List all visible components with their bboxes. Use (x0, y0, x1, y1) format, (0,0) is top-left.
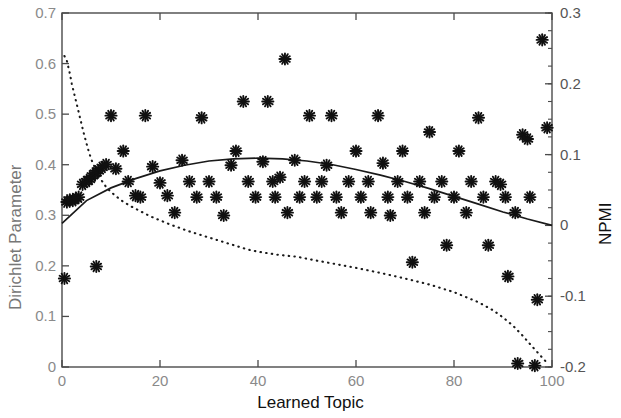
scatter-marker (502, 271, 513, 282)
y-right-tick-label: -0.2 (560, 358, 586, 375)
y-right-tick-label: 0.3 (560, 4, 581, 21)
scatter-marker (466, 176, 477, 187)
scatter-marker (372, 110, 383, 121)
x-axis-label: Learned Topic (0, 393, 621, 413)
x-tick-label: 40 (242, 372, 274, 389)
scatter-marker (118, 145, 129, 156)
scatter-marker (311, 191, 322, 202)
scatter-marker (478, 191, 489, 202)
y-left-tick-label: 0.5 (18, 105, 56, 122)
y-axis-right-label: NPMI (596, 203, 616, 246)
scatter-marker (500, 191, 511, 202)
y-left-tick-label: 0.7 (18, 4, 56, 21)
scatter-marker (402, 191, 413, 202)
scatter-marker (59, 273, 70, 284)
scatter-marker (537, 34, 548, 45)
scatter-marker (184, 176, 195, 187)
scatter-marker (326, 110, 337, 121)
scatter-marker (377, 158, 388, 169)
scatter-marker (392, 176, 403, 187)
scatter-marker (196, 112, 207, 123)
y-left-tick-label: 0.2 (18, 257, 56, 274)
scatter-marker (91, 261, 102, 272)
scatter-marker (225, 160, 236, 171)
chart-canvas (0, 0, 621, 418)
chart-figure: Dirichlet Parameter NPMI Learned Topic 0… (0, 0, 621, 418)
scatter-marker (397, 145, 408, 156)
scatter-marker (147, 161, 158, 172)
x-tick-label: 60 (340, 372, 372, 389)
y-right-tick-label: 0 (560, 216, 568, 233)
scatter-marker (524, 191, 535, 202)
scatter-marker (250, 191, 261, 202)
scatter-marker (407, 257, 418, 268)
scatter-marker (483, 240, 494, 251)
scatter-marker (169, 207, 180, 218)
scatter-marker (363, 176, 374, 187)
scatter-marker (262, 96, 273, 107)
npmi-scatter-points (59, 34, 553, 371)
scatter-marker (355, 191, 366, 202)
scatter-marker (350, 145, 361, 156)
scatter-marker (424, 126, 435, 137)
scatter-marker (203, 176, 214, 187)
x-tick-label: 80 (438, 372, 470, 389)
scatter-marker (436, 176, 447, 187)
scatter-marker (336, 207, 347, 218)
scatter-marker (304, 110, 315, 121)
scatter-marker (331, 191, 342, 202)
scatter-marker (282, 207, 293, 218)
dirichlet-dotted-line (64, 56, 547, 363)
scatter-marker (461, 207, 472, 218)
y-left-tick-label: 0.4 (18, 156, 56, 173)
scatter-marker (218, 210, 229, 221)
scatter-marker (294, 191, 305, 202)
scatter-marker (289, 155, 300, 166)
scatter-marker (316, 176, 327, 187)
scatter-marker (154, 177, 165, 188)
scatter-marker (385, 210, 396, 221)
y-left-tick-label: 0.3 (18, 206, 56, 223)
scatter-marker (140, 110, 151, 121)
scatter-marker (162, 190, 173, 201)
scatter-marker (105, 110, 116, 121)
scatter-marker (453, 145, 464, 156)
scatter-marker (429, 191, 440, 202)
scatter-marker (365, 207, 376, 218)
scatter-marker (279, 53, 290, 64)
scatter-marker (270, 191, 281, 202)
scatter-marker (419, 207, 430, 218)
x-tick-label: 20 (144, 372, 176, 389)
y-right-tick-label: -0.1 (560, 287, 586, 304)
scatter-marker (382, 191, 393, 202)
scatter-marker (343, 176, 354, 187)
scatter-marker (299, 176, 310, 187)
y-right-tick-label: 0.1 (560, 146, 581, 163)
scatter-marker (191, 191, 202, 202)
scatter-marker (441, 240, 452, 251)
scatter-marker (542, 122, 553, 133)
y-left-tick-label: 0.6 (18, 55, 56, 72)
scatter-marker (321, 160, 332, 171)
scatter-marker (529, 360, 540, 371)
scatter-marker (473, 112, 484, 123)
scatter-marker (230, 145, 241, 156)
scatter-marker (448, 191, 459, 202)
y-axis-left-label: Dirichlet Parameter (6, 165, 26, 311)
y-axis-right-ticks (545, 13, 552, 367)
y-left-tick-label: 0 (18, 358, 56, 375)
scatter-marker (211, 191, 222, 202)
scatter-marker (238, 96, 249, 107)
scatter-marker (532, 294, 543, 305)
y-right-tick-label: 0.2 (560, 75, 581, 92)
scatter-marker (123, 176, 134, 187)
y-left-tick-label: 0.1 (18, 307, 56, 324)
scatter-marker (243, 176, 254, 187)
